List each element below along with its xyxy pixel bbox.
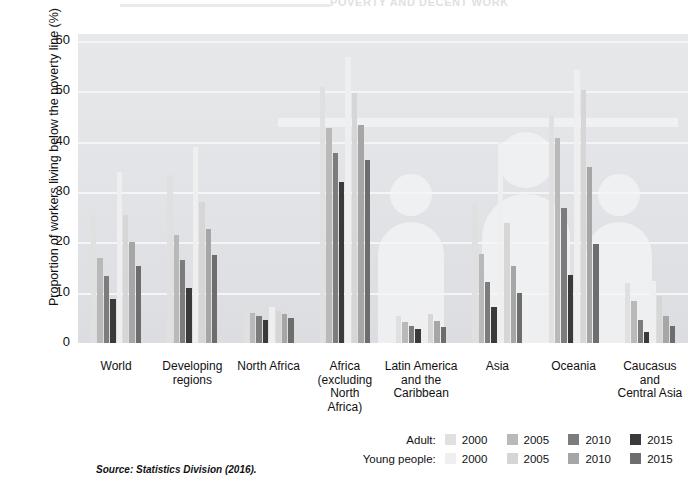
bar [396,316,401,343]
legend-item-label: 2010 [585,453,611,465]
bar [409,326,414,343]
bar [657,296,662,343]
bar [511,266,516,344]
bar [256,316,261,343]
legend-item-2000[interactable]: 2000 [445,434,507,446]
bar [415,329,420,343]
bar [110,299,115,343]
bar [333,153,338,343]
source-note: Source: Statistics Division (2016). [96,464,257,475]
bar [574,70,579,343]
bar [358,125,363,343]
y-tick-label-0: 0 [44,334,70,349]
legend-swatch-icon [507,434,518,445]
bar [365,160,370,343]
bar [174,235,179,343]
category-label-line: Caribbean [375,387,467,401]
bar [434,321,439,343]
bar [402,322,407,343]
bar [555,138,560,343]
bar [167,175,172,343]
bar [498,142,503,343]
legend-row-0: Adult:2000200520102015 [352,430,692,449]
bar [650,281,655,343]
legend-swatch-icon [568,453,579,464]
category-label-line: regions [146,374,238,388]
legend-item-2005[interactable]: 2005 [507,434,569,446]
bar [428,314,433,343]
bar [288,318,293,343]
bar [504,223,509,343]
bar-series-container [78,34,688,343]
legend-row-1: Young people:2000200520102015 [352,449,692,468]
legend-swatch-icon [568,434,579,445]
legend-swatch-icon [507,453,518,464]
x-axis-line [78,343,688,346]
legend-item-label: 2000 [462,434,488,446]
category-label-line: and the [375,374,467,388]
legend-item-2000[interactable]: 2000 [445,453,507,465]
category-label-line: and [604,374,696,388]
y-axis-label: Proportion of workers living below the p… [47,7,61,307]
bar [250,313,255,343]
bar [117,172,122,343]
bar [320,87,325,343]
bar [180,260,185,343]
legend-item-label: 2000 [462,453,488,465]
x-axis-category-labels: WorldDevelopingregionsNorth AfricaAfrica… [78,360,688,422]
legend-item-2010[interactable]: 2010 [568,453,630,465]
chart-legend: Adult:2000200520102015Young people:20002… [352,430,692,468]
bar [593,244,598,343]
bar [638,320,643,343]
bar [199,202,204,343]
legend-item-2010[interactable]: 2010 [568,434,630,446]
bar [326,128,331,343]
legend-row-title: Adult: [352,434,445,446]
bar [276,311,281,343]
bar [186,288,191,343]
legend-item-label: 2015 [647,453,673,465]
bar [123,215,128,343]
bar [581,90,586,343]
category-label-line: Caucasus [604,360,696,374]
bar [561,208,566,343]
legend-swatch-icon [445,434,456,445]
legend-item-label: 2005 [524,434,550,446]
category-label-line: Africa) [299,401,391,415]
bar [136,266,141,344]
bar [193,147,198,343]
bar [568,275,573,343]
legend-swatch-icon [630,453,641,464]
bar [244,309,249,343]
plot-area [78,34,688,343]
bar [631,301,636,343]
bar [491,307,496,343]
category-label-7: CaucasusandCentral Asia [604,360,696,401]
bar [587,167,592,343]
bar [345,57,350,343]
bar [472,204,477,343]
bar [549,115,554,343]
legend-item-label: 2015 [647,434,673,446]
legend-swatch-icon [630,434,641,445]
chart-page: POVERTY AND DECENT WORK 0102030405060 Pr… [0,0,696,497]
bar [625,283,630,343]
category-label-line: Central Asia [604,387,696,401]
cropped-page-title: POVERTY AND DECENT WORK [330,0,509,8]
bar [644,332,649,343]
legend-item-2015[interactable]: 2015 [630,434,692,446]
bar [91,215,96,343]
bar [422,304,427,343]
bar [104,276,109,343]
bar [282,314,287,343]
legend-item-label: 2010 [585,434,611,446]
bar [212,255,217,343]
bar [663,316,668,343]
legend-item-2015[interactable]: 2015 [630,453,692,465]
bar [479,254,484,343]
cropped-header-strip: POVERTY AND DECENT WORK [0,0,696,14]
bar [441,327,446,343]
bar [670,326,675,343]
legend-item-2005[interactable]: 2005 [507,453,569,465]
legend-swatch-icon [445,453,456,464]
